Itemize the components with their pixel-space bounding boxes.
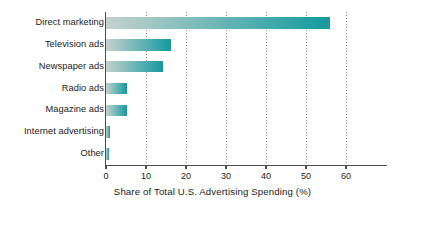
gridline-40 xyxy=(266,12,267,165)
gridline-60 xyxy=(346,12,347,165)
category-label-internet-advertising: Internet advertising xyxy=(24,126,104,136)
bar-other[interactable] xyxy=(106,148,109,160)
x-tick-50 xyxy=(305,165,306,169)
x-tick-label-30: 30 xyxy=(221,171,231,181)
x-tick-60 xyxy=(345,165,346,169)
bar-television-ads[interactable] xyxy=(106,39,171,51)
x-tick-40 xyxy=(265,165,266,169)
x-tick-label-50: 50 xyxy=(301,171,311,181)
category-label-radio-ads: Radio ads xyxy=(62,83,104,93)
bar-magazine-ads[interactable] xyxy=(106,105,127,117)
bar-chart-plot-area: Share of Total U.S. Advertising Spending… xyxy=(7,3,418,216)
x-tick-label-0: 0 xyxy=(103,171,108,181)
x-tick-20 xyxy=(185,165,186,169)
bar-internet-advertising[interactable] xyxy=(106,126,110,138)
chart-card: Share of Total U.S. Advertising Spending… xyxy=(7,3,418,216)
bar-newspaper-ads[interactable] xyxy=(106,61,163,73)
gridline-10 xyxy=(146,12,147,165)
gridline-30 xyxy=(226,12,227,165)
page-edge-left xyxy=(0,3,7,225)
bar-direct-marketing[interactable] xyxy=(106,17,330,29)
x-axis-title: Share of Total U.S. Advertising Spending… xyxy=(7,186,418,197)
x-tick-10 xyxy=(145,165,146,169)
x-tick-label-40: 40 xyxy=(261,171,271,181)
x-tick-30 xyxy=(225,165,226,169)
chart-screenshot: Share of Total U.S. Advertising Spending… xyxy=(0,0,426,225)
x-tick-0 xyxy=(105,165,106,169)
category-label-newspaper-ads: Newspaper ads xyxy=(39,61,104,71)
category-label-direct-marketing: Direct marketing xyxy=(36,17,104,27)
bar-radio-ads[interactable] xyxy=(106,83,127,95)
category-label-television-ads: Television ads xyxy=(45,39,104,49)
category-label-magazine-ads: Magazine ads xyxy=(46,104,104,114)
gridline-20 xyxy=(186,12,187,165)
gridline-50 xyxy=(306,12,307,165)
category-label-other: Other xyxy=(80,148,104,158)
x-tick-label-60: 60 xyxy=(341,171,351,181)
x-tick-label-10: 10 xyxy=(141,171,151,181)
x-tick-label-20: 20 xyxy=(181,171,191,181)
